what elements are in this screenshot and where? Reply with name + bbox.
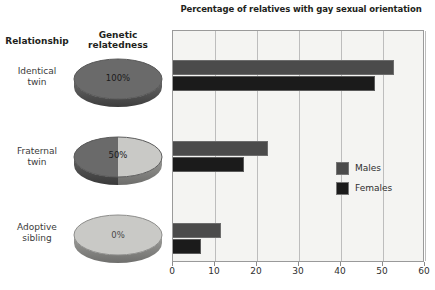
pie-chart-adoptive-sibling: 0% [70,209,166,267]
column-header-relationship: Relationship [2,36,72,46]
row-label-line1: Fraternal [2,146,72,157]
x-tick-label: 10 [200,266,228,276]
row-label-line2: sibling [2,233,72,244]
column-header-line2: relatedness [68,40,168,50]
chart-title: Percentage of relatives with gay sexual … [172,5,430,14]
x-tick-label: 0 [158,266,186,276]
row-label-adoptive-sibling: Adoptive sibling [2,222,72,245]
legend-label-males: Males [355,164,381,173]
row-label-line1: Adoptive [2,222,72,233]
pie-percent-label: 0% [70,231,166,240]
pie-percent-label: 50% [70,151,166,160]
legend-swatch-males-icon [336,162,349,175]
row-label-line1: Identical [2,66,72,77]
legend-swatch-females-icon [336,182,349,195]
bar-males-identical-twin [173,60,394,75]
bar-females-fraternal-twin [173,157,244,172]
pie-percent-label: 100% [70,74,166,83]
pie-chart-fraternal-twin: 50% [70,131,166,189]
legend-item-males: Males [336,160,420,177]
legend-item-females: Females [336,180,420,197]
x-tick-label: 50 [368,266,396,276]
bar-females-adoptive-sibling [173,239,201,254]
x-tick-label: 30 [284,266,312,276]
pie-disc-icon [70,131,166,189]
x-tick-label: 60 [410,266,435,276]
bar-females-identical-twin [173,76,375,91]
column-header-line1: Genetic [68,30,168,40]
figure-canvas: Percentage of relatives with gay sexual … [0,0,435,290]
x-tick-label: 40 [326,266,354,276]
pie-chart-identical-twin: 100% [70,53,166,111]
bar-chart-plot-area [172,30,424,262]
bar-males-fraternal-twin [173,141,268,156]
chart-legend: Males Females [336,160,420,200]
gridline [425,31,426,261]
row-label-fraternal-twin: Fraternal twin [2,146,72,169]
row-label-identical-twin: Identical twin [2,66,72,89]
x-tick-label: 20 [242,266,270,276]
row-label-line2: twin [2,77,72,88]
legend-label-females: Females [355,184,392,193]
row-label-line2: twin [2,157,72,168]
bar-males-adoptive-sibling [173,223,221,238]
column-header-genetic-relatedness: Genetic relatedness [68,30,168,51]
